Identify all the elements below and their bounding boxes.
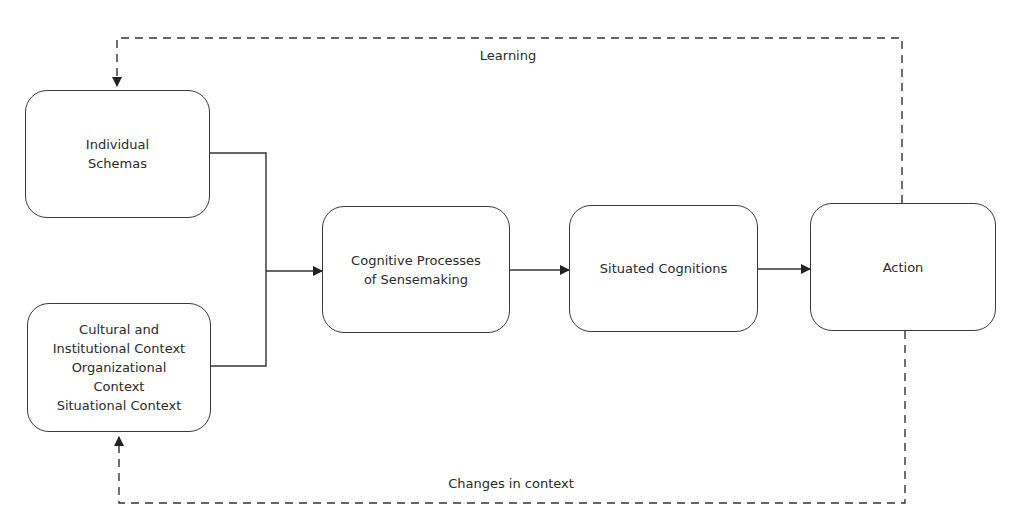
context-label: Cultural and Institutional Context Organ… [53,320,185,415]
individual-schemas-box: Individual Schemas [25,90,210,218]
cognitive-processes-box: Cognitive Processes of Sensemaking [322,206,510,333]
action-box: Action [810,203,996,331]
context-box: Cultural and Institutional Context Organ… [27,303,211,432]
learning-label: Learning [480,48,536,63]
changes-in-context-label: Changes in context [448,476,574,491]
individual-schemas-label: Individual Schemas [86,135,149,173]
schemas-connector [210,153,266,366]
cognitive-processes-label: Cognitive Processes of Sensemaking [351,251,481,289]
action-label: Action [883,258,924,277]
situated-cognitions-box: Situated Cognitions [569,205,758,332]
situated-cognitions-label: Situated Cognitions [600,259,727,278]
